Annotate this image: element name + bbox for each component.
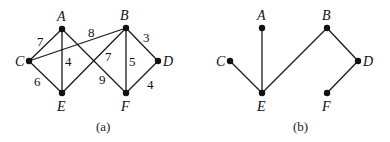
edge-C-A [29,29,62,61]
node-E-label: E [256,99,266,114]
edge-D-F [327,61,358,93]
graph-b-edges [230,28,358,93]
node-E-dot [259,90,265,96]
edge-weight-C-E: 6 [34,74,41,89]
caption-a: (a) [96,119,110,134]
node-C-label: C [216,54,226,69]
node-F-label: F [120,99,130,114]
node-B-dot [123,25,129,31]
edge-weight-B-F: 5 [129,54,136,69]
graph-figure: 786497534 ABCDEF (a) ABCDEF (b) [0,0,390,142]
node-E-dot [59,90,65,96]
node-C-dot [227,58,233,64]
node-D-dot [155,58,161,64]
node-E-label: E [56,99,66,114]
edge-B-D [327,28,358,61]
edge-E-B [262,28,327,93]
node-C-dot [26,58,32,64]
edge-weight-C-B: 8 [88,25,95,40]
node-B-dot [324,25,330,31]
node-C-label: C [15,54,25,69]
spanning-tree-b: ABCDEF (b) [216,8,373,134]
node-F-dot [324,90,330,96]
graph-a-edge-weights: 786497534 [34,25,154,92]
caption-b: (b) [293,119,308,134]
node-A-dot [259,25,265,31]
node-B-label: B [322,8,331,23]
edge-weight-C-A: 7 [37,34,44,49]
node-A-label: A [56,9,66,24]
edge-weight-F-D: 4 [147,77,154,92]
node-A-label: A [256,8,266,23]
node-F-label: F [321,99,331,114]
node-D-label: D [162,54,173,69]
edge-weight-E-B: 7 [105,49,112,64]
node-F-dot [123,90,129,96]
node-D-label: D [362,54,373,69]
edge-weight-A-E: 4 [65,54,72,69]
weighted-graph-a: 786497534 ABCDEF (a) [15,8,173,134]
edge-weight-A-F: 9 [99,72,106,87]
edge-weight-B-D: 3 [143,30,150,45]
node-A-dot [59,26,65,32]
edge-C-E [230,61,262,93]
node-D-dot [355,58,361,64]
node-B-label: B [120,8,129,23]
